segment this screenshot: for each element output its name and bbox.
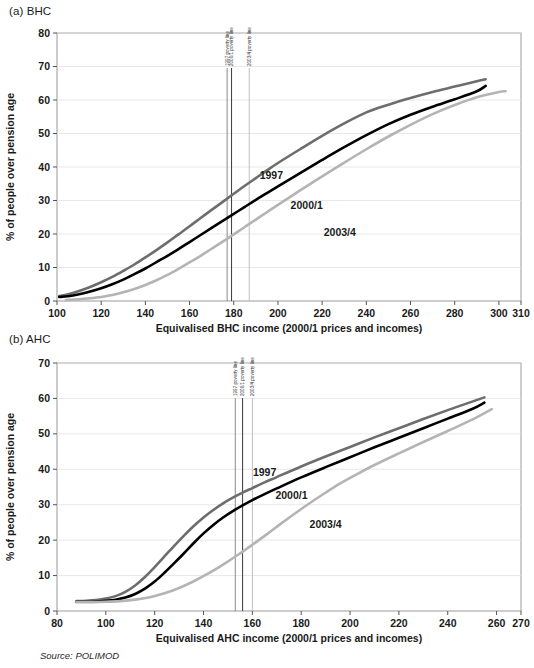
y-tick-label: 20 [38, 534, 50, 546]
x-tick-label: 200 [341, 617, 359, 629]
y-axis-title: % of people over pension age [4, 413, 16, 561]
x-tick-label: 240 [439, 617, 457, 629]
x-tick-label: 180 [292, 617, 310, 629]
x-tick-label: 220 [390, 617, 408, 629]
poverty-line-label: 2003/4 poverty line [247, 27, 252, 66]
x-tick-label: 180 [225, 307, 243, 319]
x-axis-title: Equivalised AHC income (2000/1 prices an… [156, 632, 422, 644]
x-tick-label: 140 [137, 307, 155, 319]
poverty-line-label: 1997 poverty line [233, 361, 238, 396]
y-tick-label: 40 [38, 463, 50, 475]
y-tick-label: 60 [38, 94, 50, 106]
x-tick-label: 100 [48, 307, 66, 319]
y-tick-label: 50 [38, 427, 50, 439]
x-tick-label: 260 [488, 617, 506, 629]
poverty-line-label: 2000/1 poverty line [229, 27, 234, 66]
y-tick-label: 40 [38, 161, 50, 173]
series-annotation: 2003/4 [324, 226, 356, 238]
panel-b-caption: (b) AHC [9, 333, 51, 345]
x-tick-label: 220 [313, 307, 331, 319]
x-tick-label: 140 [195, 617, 213, 629]
x-tick-label: 280 [446, 307, 464, 319]
y-tick-label: 0 [44, 605, 50, 617]
x-tick-label: 120 [92, 307, 110, 319]
source-note: Source: POLIMOD [40, 650, 119, 661]
series-annotation: 1997 [260, 169, 284, 181]
panel-a-caption: (a) BHC [9, 5, 51, 17]
poverty-line-label: 2000/1 poverty line [240, 357, 245, 396]
y-tick-label: 10 [38, 569, 50, 581]
x-tick-label: 120 [146, 617, 164, 629]
y-tick-label: 0 [44, 295, 50, 307]
y-tick-label: 10 [38, 261, 50, 273]
y-tick-label: 70 [38, 357, 50, 369]
x-tick-label: 240 [358, 307, 376, 319]
series-annotation: 2000/1 [275, 489, 307, 501]
x-tick-label: 300 [490, 307, 508, 319]
y-tick-label: 30 [38, 194, 50, 206]
plot-area [57, 363, 521, 611]
chart-panel-a: 0102030405060708010012014016018020022024… [0, 18, 534, 338]
x-tick-label: 160 [244, 617, 262, 629]
y-tick-label: 60 [38, 392, 50, 404]
poverty-line-label: 2003/4 poverty line [250, 357, 255, 396]
x-tick-label: 260 [402, 307, 420, 319]
series-annotation: 1997 [253, 466, 277, 478]
y-tick-label: 70 [38, 60, 50, 72]
y-axis-title: % of people over pension age [4, 93, 16, 241]
y-tick-label: 80 [38, 27, 50, 39]
x-tick-label: 200 [269, 307, 287, 319]
x-tick-label: 310 [512, 307, 530, 319]
x-tick-label: 100 [97, 617, 115, 629]
y-tick-label: 20 [38, 228, 50, 240]
x-tick-label: 80 [51, 617, 63, 629]
x-tick-label: 270 [512, 617, 530, 629]
x-axis-title: Equivalised BHC income (2000/1 prices an… [156, 322, 423, 334]
y-tick-label: 30 [38, 498, 50, 510]
chart-panel-b: 0102030405060708010012014016018020022024… [0, 348, 534, 653]
x-tick-label: 160 [181, 307, 199, 319]
series-annotation: 2003/4 [310, 518, 342, 530]
figure-page: (a) BHC 01020304050607080100120140160180… [0, 0, 534, 668]
y-tick-label: 50 [38, 127, 50, 139]
series-annotation: 2000/1 [291, 199, 323, 211]
